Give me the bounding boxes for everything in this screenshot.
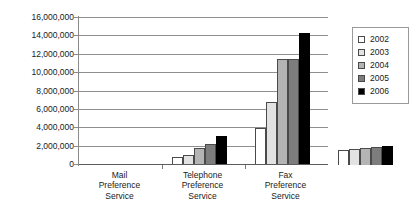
bar-2006 — [299, 33, 310, 165]
y-axis-tick-label: 4,000,000 — [2, 123, 74, 132]
legend-item-2004[interactable]: 2004 — [358, 59, 404, 72]
category-label-line: Service — [78, 191, 161, 201]
legend-swatch-icon — [358, 36, 365, 43]
category-label-line: Preference — [161, 180, 244, 190]
category-label-line: Telephone — [161, 170, 244, 180]
category-label-line: Preference — [78, 180, 161, 190]
y-axis-tick-mark — [74, 146, 78, 147]
bar-2004 — [277, 59, 288, 165]
legend-swatch-icon — [358, 62, 365, 69]
x-axis-category-label: MailPreferenceService — [78, 170, 161, 201]
y-axis-tick-mark — [74, 72, 78, 73]
category-label-line: Preference — [244, 180, 327, 190]
y-axis-tick-mark — [74, 164, 78, 165]
legend-item-label: 2003 — [370, 48, 389, 57]
bar-group — [241, 17, 324, 165]
bar-chart: 02,000,0004,000,0006,000,0008,000,00010,… — [0, 0, 419, 217]
x-axis-category-label: TelephonePreferenceService — [161, 170, 244, 201]
y-axis-tick-label: 2,000,000 — [2, 142, 74, 151]
legend-item-2003[interactable]: 2003 — [358, 46, 404, 59]
category-label-line: Mail — [78, 170, 161, 180]
y-axis-tick-label: 16,000,000 — [2, 13, 74, 22]
y-axis-tick-label: 0 — [2, 160, 74, 169]
bar-2006 — [216, 136, 227, 165]
legend: 20022003200420052006 — [352, 27, 409, 104]
x-axis-category-separator — [162, 165, 163, 169]
legend-item-2002[interactable]: 2002 — [358, 33, 404, 46]
legend-swatch-icon — [358, 88, 365, 95]
y-axis-tick-mark — [74, 54, 78, 55]
y-axis-tick-label: 8,000,000 — [2, 87, 74, 96]
bar-2003 — [266, 102, 277, 165]
bar-2005 — [288, 59, 299, 165]
bars — [255, 17, 310, 165]
legend-item-label: 2006 — [370, 87, 389, 96]
bar-2004 — [360, 148, 371, 165]
legend-item-2006[interactable]: 2006 — [358, 85, 404, 98]
legend-item-label: 2004 — [370, 61, 389, 70]
y-axis-tick-mark — [74, 109, 78, 110]
y-axis-tick-label: 12,000,000 — [2, 50, 74, 59]
bar-group — [158, 17, 241, 165]
legend-item-label: 2005 — [370, 74, 389, 83]
y-axis-tick-label: 10,000,000 — [2, 68, 74, 77]
legend-item-2005[interactable]: 2005 — [358, 72, 404, 85]
bar-2005 — [205, 144, 216, 165]
bars — [172, 17, 227, 165]
category-label-line: Service — [161, 191, 244, 201]
bar-2002 — [338, 150, 349, 165]
category-label-line: Service — [244, 191, 327, 201]
y-axis-tick-mark — [74, 91, 78, 92]
plot-area — [79, 17, 328, 165]
bar-2004 — [194, 148, 205, 165]
y-axis-tick-label: 14,000,000 — [2, 31, 74, 40]
x-axis-category-separator — [245, 165, 246, 169]
y-axis-tick-labels: 02,000,0004,000,0006,000,0008,000,00010,… — [0, 0, 74, 217]
legend-swatch-icon — [358, 49, 365, 56]
bar-2005 — [371, 147, 382, 165]
y-axis-tick-label: 6,000,000 — [2, 105, 74, 114]
y-axis-tick-mark — [74, 17, 78, 18]
bar-2003 — [349, 149, 360, 165]
x-axis-line — [79, 164, 328, 165]
bar-2006 — [382, 146, 393, 165]
category-label-line: Fax — [244, 170, 327, 180]
x-axis-category-label: FaxPreferenceService — [244, 170, 327, 201]
bar-2002 — [255, 128, 266, 165]
legend-item-label: 2002 — [370, 35, 389, 44]
legend-swatch-icon — [358, 75, 365, 82]
y-axis-tick-mark — [74, 35, 78, 36]
y-axis-tick-mark — [74, 127, 78, 128]
